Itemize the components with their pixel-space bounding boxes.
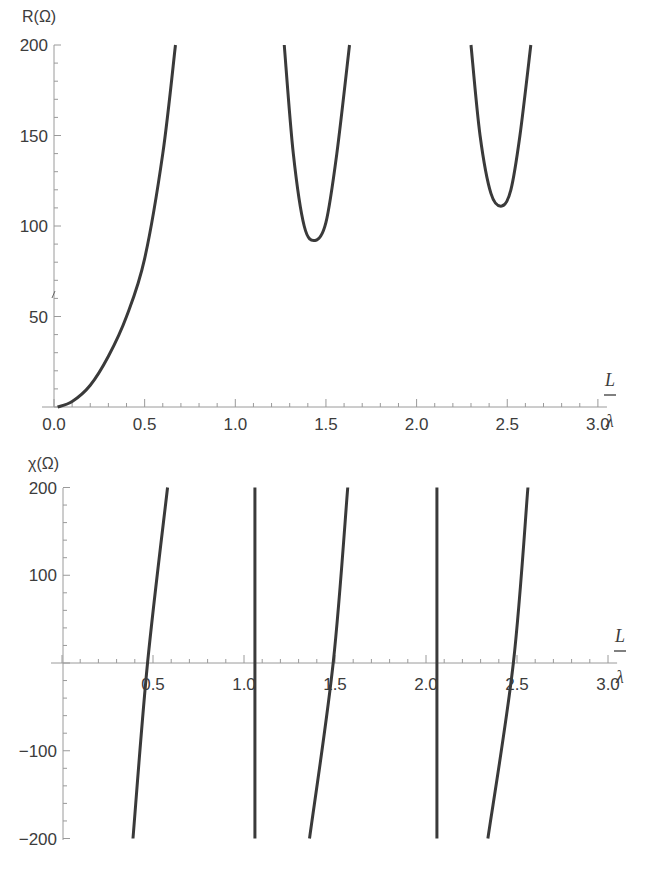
figure: 0.00.51.01.52.02.53.050100150200R(Ω)Lλ 0…	[0, 0, 664, 869]
x-tick-label: 1.0	[223, 415, 247, 434]
x-axis-title-numerator: L	[614, 626, 625, 646]
y-tick-label: 50	[29, 308, 48, 327]
x-tick-label: 0.5	[133, 415, 157, 434]
x-tick-label: 2.0	[405, 415, 429, 434]
y-tick-label: 200	[29, 479, 57, 498]
x-axis-title-numerator: L	[604, 370, 615, 390]
y-tick-label: 200	[20, 36, 48, 55]
y-tick-label: 150	[20, 127, 48, 146]
x-tick-label: 1.5	[323, 675, 347, 694]
series-r-branch-3	[471, 45, 531, 206]
reactance-chart: 0.51.01.52.02.53.0−200−100100200χ(Ω)Lλ	[19, 455, 626, 849]
y-tick-label: 100	[20, 217, 48, 236]
y-axis-title: χ(Ω)	[28, 455, 59, 472]
x-axis-title-denominator: λ	[615, 667, 624, 687]
x-axis-title-denominator: λ	[605, 411, 614, 431]
series-r-branch-1	[58, 45, 176, 407]
y-tick-label: −100	[19, 742, 57, 761]
resistance-chart: 0.00.51.01.52.02.53.050100150200R(Ω)Lλ	[20, 8, 616, 434]
x-tick-label: 1.0	[232, 675, 256, 694]
x-tick-label: 0.0	[42, 415, 66, 434]
y-axis-title: R(Ω)	[22, 8, 56, 25]
x-tick-label: 2.0	[414, 675, 438, 694]
y-tick-label: 100	[29, 566, 57, 585]
y-tick-label: −200	[19, 830, 57, 849]
series-r-branch-2	[284, 45, 349, 241]
x-tick-label: 1.5	[314, 415, 338, 434]
x-tick-label: 2.5	[495, 415, 519, 434]
